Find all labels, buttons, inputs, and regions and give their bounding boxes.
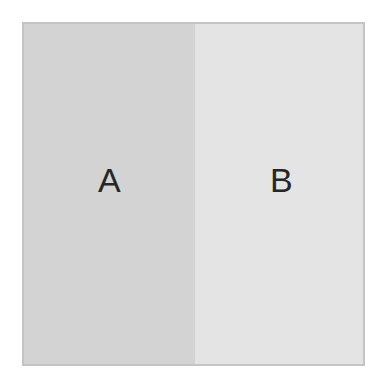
- panel-b: B: [195, 24, 363, 364]
- split-square: A B: [22, 22, 365, 366]
- panel-b-label: B: [270, 163, 293, 197]
- panel-a-label: A: [98, 163, 121, 197]
- panel-a: A: [24, 24, 195, 364]
